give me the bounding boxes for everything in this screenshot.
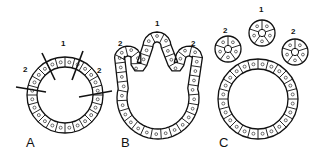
panel-c-letter: C — [219, 135, 228, 150]
panel-b-site-1-label: 1 — [155, 19, 160, 28]
panel-a-site-1-label: 1 — [61, 39, 66, 48]
epithelial-budding-diagram: 1 2 2 A 1 2 2 B 1 2 2 C — [0, 0, 324, 152]
panel-a-letter: A — [26, 135, 35, 150]
panel-a: 1 2 2 A — [16, 39, 112, 150]
panel-c-site-1-label: 1 — [259, 5, 264, 14]
panel-c: 1 2 2 C — [215, 5, 308, 150]
panel-c-site-2-right-label: 2 — [291, 27, 296, 36]
panel-c-bud-rosette-1 — [249, 20, 275, 46]
panel-b-site-2-left-label: 2 — [118, 39, 123, 48]
panel-c-bud-rosette-2-right — [282, 39, 308, 65]
panel-a-site-2-right-label: 2 — [97, 66, 102, 75]
panel-b-letter: B — [121, 135, 130, 150]
panel-a-site-2-left-label: 2 — [23, 65, 28, 74]
panel-b-site-2-right-label: 2 — [191, 39, 196, 48]
panel-c-site-2-left-label: 2 — [223, 26, 228, 35]
panel-c-cell-ring — [218, 59, 298, 139]
panel-b: 1 2 2 B — [115, 19, 203, 150]
panel-b-lobed-epithelium — [115, 32, 203, 139]
panel-c-bud-rosette-2-left — [215, 36, 241, 62]
